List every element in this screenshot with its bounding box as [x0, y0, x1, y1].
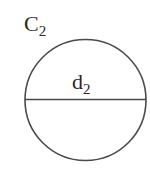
circle-diagram: C2 d2: [0, 0, 150, 187]
circle-label-subscript: 2: [39, 23, 47, 39]
circle-label: C2: [24, 13, 46, 35]
diameter-label: d2: [72, 71, 91, 93]
circle-label-main: C: [24, 11, 39, 36]
diameter-label-main: d: [72, 69, 83, 94]
diameter-label-subscript: 2: [83, 81, 91, 97]
